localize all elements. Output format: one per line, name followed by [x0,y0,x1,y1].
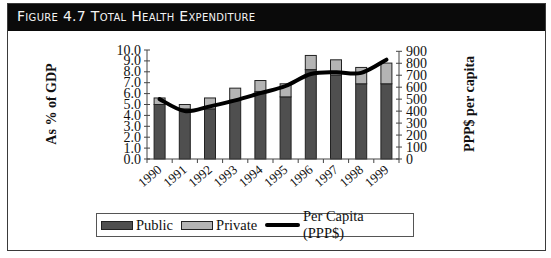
public-bar [356,84,367,159]
x-tick-label: 1995 [261,162,291,190]
private-swatch-icon [181,221,213,230]
right-axis: 0100200300400500600700800900 [396,44,427,167]
legend-item-per-capita: Per Capita (PPP$) [265,208,405,242]
public-bar [381,84,392,159]
left-axis: 0.01.02.03.04.05.06.07.08.09.010.0 [117,43,151,167]
legend-label-private: Private [216,217,257,234]
right-tick-label: 900 [406,44,427,59]
public-bar [230,100,241,159]
public-bar [280,97,291,159]
legend-label-per-capita: Per Capita (PPP$) [303,208,405,242]
private-bar [305,55,316,69]
line-swatch-icon [265,223,300,227]
left-tick-label: 10.0 [117,43,142,58]
x-tick-label: 1991 [160,162,190,190]
public-bar [205,109,216,159]
left-axis-label: As % of GDP [44,63,59,145]
x-tick-label: 1996 [286,161,316,190]
x-tick-label: 1998 [337,162,367,190]
public-bar [179,109,190,159]
legend-item-public: Public [101,217,173,234]
x-axis: 1990199119921993199419951996199719981999 [135,159,399,190]
x-tick-label: 1999 [362,162,392,190]
legend-item-private: Private [181,217,257,234]
public-bar [255,91,266,159]
public-bar [154,105,165,160]
x-tick-label: 1997 [311,161,341,190]
legend-label-public: Public [136,217,173,234]
public-bar [331,75,342,159]
per-capita-line [160,60,387,112]
private-bar [255,81,266,92]
right-axis-label: PPP$ per capita [462,56,477,152]
private-bar [381,63,392,84]
legend: Public Private Per Capita (PPP$) [96,213,414,237]
public-bar [305,70,316,159]
bars [154,55,392,159]
x-tick-label: 1994 [236,161,266,190]
public-swatch-icon [101,221,133,230]
x-tick-label: 1993 [211,162,241,190]
x-tick-label: 1992 [185,162,215,190]
